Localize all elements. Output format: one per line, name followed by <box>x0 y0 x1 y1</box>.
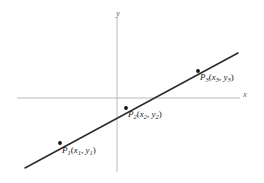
p1-coord-y-subscript: 1 <box>90 149 93 156</box>
p3-subscript: 3 <box>206 76 209 83</box>
p3-coord-y: y <box>224 72 228 82</box>
x-axis-label: x <box>243 90 247 99</box>
graph-canvas <box>0 0 264 183</box>
p1-name: P <box>62 145 68 155</box>
line-graph-figure: P1(x1, y1) P2(x2, y2) P3(x3, y3) x y <box>0 0 264 183</box>
p1-close-paren: ) <box>93 145 96 155</box>
p1-comma: , <box>81 145 83 155</box>
p2-coord-x-subscript: 2 <box>144 113 147 120</box>
p3-coord-y-subscript: 3 <box>228 76 231 83</box>
p1-coord-y: y <box>86 145 90 155</box>
y-axis-label: y <box>116 9 120 18</box>
p1-coord-x-subscript: 1 <box>78 149 81 156</box>
p2-comma: , <box>147 109 149 119</box>
p3-comma: , <box>219 72 221 82</box>
p2-subscript: 2 <box>134 113 137 120</box>
p1-subscript: 1 <box>68 149 71 156</box>
p2-coord-y-subscript: 2 <box>156 113 159 120</box>
point-label-p1: P1(x1, y1) <box>62 146 96 155</box>
p2-name: P <box>128 109 134 119</box>
p3-close-paren: ) <box>231 72 234 82</box>
p2-coord-y: y <box>152 109 156 119</box>
point-label-p3: P3(x3, y3) <box>200 73 234 82</box>
point-label-p2: P2(x2, y2) <box>128 110 162 119</box>
p3-name: P <box>200 72 206 82</box>
p2-close-paren: ) <box>159 109 162 119</box>
p3-coord-x-subscript: 3 <box>216 76 219 83</box>
